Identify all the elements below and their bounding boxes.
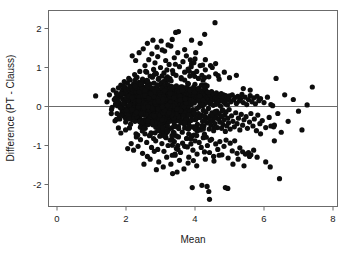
data-point: [186, 160, 191, 165]
data-point: [134, 110, 139, 115]
data-point: [116, 125, 121, 130]
data-point: [142, 88, 147, 93]
data-point: [149, 51, 154, 56]
data-point: [192, 74, 197, 79]
data-point: [232, 138, 237, 143]
data-point: [203, 157, 208, 162]
data-point: [208, 63, 213, 68]
data-point: [165, 103, 170, 108]
data-point: [240, 123, 245, 128]
data-point: [189, 117, 194, 122]
data-point: [142, 63, 147, 68]
data-point: [222, 70, 227, 75]
data-point: [291, 97, 296, 102]
data-point: [277, 176, 282, 181]
data-point: [191, 132, 196, 137]
data-point: [245, 126, 250, 131]
data-point: [234, 151, 239, 156]
data-point: [221, 144, 226, 149]
data-point: [248, 111, 253, 116]
data-point: [223, 129, 228, 134]
data-point: [175, 147, 180, 152]
scatter-plot-svg: 210-1-2 02468 Mean Difference (PT - Clau…: [0, 0, 354, 255]
data-point: [207, 150, 212, 155]
data-point: [145, 78, 150, 83]
data-point: [208, 138, 213, 143]
data-point: [136, 98, 141, 103]
data-point: [160, 125, 165, 130]
x-axis-title: Mean: [180, 234, 205, 245]
data-point: [211, 159, 216, 164]
data-point: [241, 163, 246, 168]
data-point: [200, 123, 205, 128]
data-point: [186, 112, 191, 117]
data-point: [190, 185, 195, 190]
data-point: [229, 113, 234, 118]
data-point: [182, 47, 187, 52]
data-point: [227, 107, 232, 112]
data-point: [186, 132, 191, 137]
data-point: [156, 99, 161, 104]
data-point: [155, 54, 160, 59]
data-point: [135, 144, 140, 149]
data-point: [133, 58, 138, 63]
data-point: [122, 79, 127, 84]
data-point: [143, 69, 148, 74]
data-point: [180, 88, 185, 93]
data-point: [128, 77, 133, 82]
data-point: [193, 50, 198, 55]
data-point: [205, 143, 210, 148]
data-point: [161, 97, 166, 102]
data-point: [213, 109, 218, 114]
data-point: [271, 124, 276, 129]
data-point: [202, 75, 207, 80]
data-point: [172, 55, 177, 60]
y-tick-label: -2: [33, 179, 41, 190]
data-point: [123, 127, 128, 132]
data-point: [267, 115, 272, 120]
data-point: [130, 95, 135, 100]
x-tick-label: 6: [261, 213, 266, 224]
data-point: [129, 107, 134, 112]
data-point: [160, 104, 165, 109]
data-point: [159, 38, 164, 43]
data-point: [149, 119, 154, 124]
data-point: [176, 126, 181, 131]
data-point: [104, 99, 109, 104]
data-point: [194, 151, 199, 156]
data-point: [163, 58, 168, 63]
data-point: [233, 110, 238, 115]
data-point: [125, 146, 130, 151]
data-point: [148, 157, 153, 162]
data-point: [161, 149, 166, 154]
data-point: [279, 130, 284, 135]
data-point: [175, 50, 180, 55]
data-point: [234, 73, 239, 78]
bland-altman-figure: 210-1-2 02468 Mean Difference (PT - Clau…: [0, 0, 354, 255]
data-point: [165, 129, 170, 134]
data-point: [201, 113, 206, 118]
data-point: [180, 59, 185, 64]
data-point: [141, 46, 146, 51]
data-point: [194, 163, 199, 168]
data-point: [185, 126, 190, 131]
y-tick-label: 0: [36, 101, 41, 112]
data-point: [203, 57, 208, 62]
data-point: [155, 82, 160, 87]
data-point: [134, 75, 139, 80]
data-point: [206, 189, 211, 194]
data-point: [129, 141, 134, 146]
data-point: [200, 102, 205, 107]
data-point: [161, 133, 166, 138]
data-point: [170, 143, 175, 148]
data-point: [265, 95, 270, 100]
data-point: [141, 125, 146, 130]
data-point: [243, 114, 248, 119]
data-point: [162, 49, 167, 54]
data-point: [164, 155, 169, 160]
data-point: [150, 75, 155, 80]
data-point: [137, 50, 142, 55]
data-point: [173, 153, 178, 158]
data-point: [219, 113, 224, 118]
data-point: [208, 118, 213, 123]
